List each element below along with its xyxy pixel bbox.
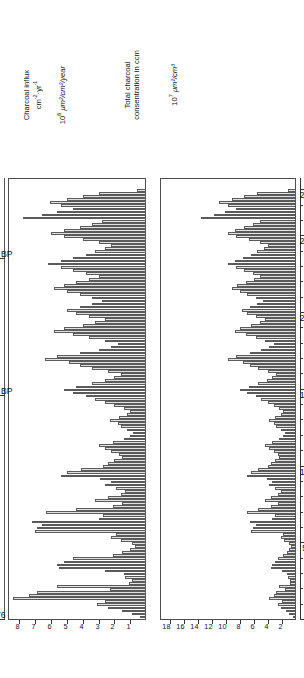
depth-minor-tick [300,496,303,497]
depth-tick-label: 50 [302,543,304,553]
depth-minor-tick [300,481,303,482]
age-tick-label: 1976 [0,610,6,620]
axes-layer: 05010015020025028019762000 BP4000 BP [0,0,304,678]
depth-minor-tick [300,327,303,328]
age-axis-spine [4,178,5,620]
charcoal-diagram-figure: Charcoal influx cm-2·yr-1 106 μm²/cm²/ye… [0,0,304,678]
depth-tick-label: 280 [300,190,304,200]
depth-minor-tick [300,604,303,605]
age-tick-label: 4000 BP [0,249,12,259]
depth-minor-tick [300,435,303,436]
depth-tick-label: 100 [300,467,304,477]
depth-minor-tick [300,558,303,559]
depth-minor-tick [300,343,303,344]
depth-minor-tick [300,588,303,589]
depth-minor-tick [300,251,303,252]
age-tick-label: 2000 BP [0,386,12,396]
depth-tick-label: 250 [300,236,304,246]
depth-minor-tick [300,220,303,221]
depth-minor-tick [300,404,303,405]
depth-minor-tick [300,297,303,298]
depth-minor-tick [300,527,303,528]
depth-minor-tick [300,281,303,282]
depth-tick-label: 150 [300,390,304,400]
depth-minor-tick [300,373,303,374]
depth-minor-tick [300,450,303,451]
depth-major-tick [300,619,304,620]
depth-minor-tick [300,266,303,267]
depth-tick-label: 200 [300,313,304,323]
depth-minor-tick [300,573,303,574]
depth-minor-tick [300,358,303,359]
depth-minor-tick [300,512,303,513]
depth-minor-tick [300,420,303,421]
depth-minor-tick [300,205,303,206]
